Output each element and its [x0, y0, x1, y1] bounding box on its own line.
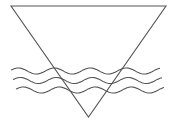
water-symbol-diagram [0, 0, 174, 128]
wave-line-3 [16, 87, 164, 93]
inverted-triangle [11, 6, 166, 117]
wave-line-2 [13, 78, 162, 84]
wave-line-1 [11, 68, 160, 74]
